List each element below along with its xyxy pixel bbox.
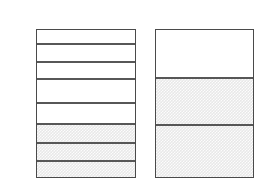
left-column-segment-4 (36, 79, 136, 103)
right-column-segment-3 (155, 125, 254, 178)
right-column-segment-1 (155, 29, 254, 78)
left-column-segment-6 (36, 124, 136, 143)
figure-canvas (0, 0, 260, 192)
right-column (155, 29, 254, 178)
left-column-segment-2 (36, 44, 136, 62)
left-column-segment-8 (36, 161, 136, 178)
right-column-segment-2 (155, 78, 254, 125)
left-column-segment-5 (36, 103, 136, 124)
left-column-segment-3 (36, 62, 136, 79)
left-column (36, 29, 136, 178)
left-column-segment-1 (36, 29, 136, 44)
left-column-segment-7 (36, 143, 136, 161)
